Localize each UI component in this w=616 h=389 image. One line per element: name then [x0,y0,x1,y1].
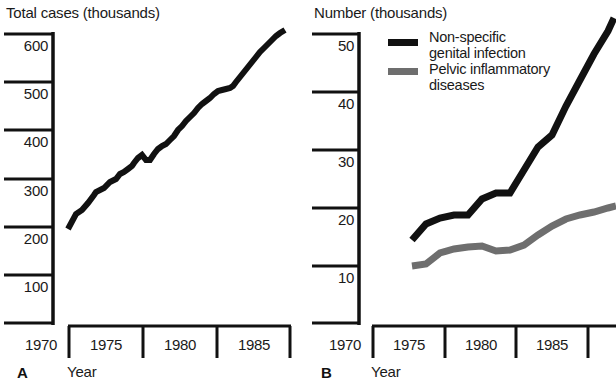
panel-a-series-total-cases [68,30,285,229]
panel-a-x-tick-label-1975: 1975 [81,336,131,353]
panel-b-x-tick-label-1980: 1980 [456,336,506,353]
panel-b-letter: B [321,364,332,381]
panel-a-letter: A [17,364,28,381]
panel-b-x-tick-label-1975: 1975 [384,336,434,353]
panel-a-x-tick-label-1980: 1980 [155,336,205,353]
panel-a-y-tick-label-400: 400 [2,133,48,150]
panel-a-y-tick-label-600: 600 [2,37,48,54]
panel-a-y-tick-label-200: 200 [2,230,48,247]
panel-a-y-tick-label-500: 500 [2,85,48,102]
chart-panel-a: Total cases (thousands) 600 500 400 300 … [0,0,308,389]
panel-a-y-tick-label-300: 300 [2,182,48,199]
panel-a-x-axis-label: Year [67,363,97,380]
legend-label-non-specific-genital-infection: Non-specific genital infection [429,30,526,61]
panel-b-y-tick-label-40: 40 [310,95,354,112]
legend-swatch-non-specific-genital-infection [388,39,418,46]
legend-swatch-pelvic-inflammatory-diseases [388,68,418,75]
legend-label-pelvic-inflammatory-diseases: Pelvic inflammatory diseases [429,62,550,93]
panel-b-y-tick-label-30: 30 [310,153,354,170]
panel-a-x-tick-label-1970: 1970 [16,336,66,353]
panel-b-x-axis-label: Year [371,363,401,380]
panel-b-x-tick-label-1985: 1985 [527,336,577,353]
panel-b-y-tick-label-50: 50 [310,37,354,54]
panel-a-x-tick-label-1985: 1985 [229,336,279,353]
panel-a-y-tick-label-100: 100 [2,278,48,295]
chart-panel-b: Number (thousands) 50 40 30 20 10 1970 1… [308,0,616,389]
panel-b-y-tick-label-10: 10 [310,269,354,286]
panel-b-x-tick-label-1970: 1970 [320,336,370,353]
panel-b-y-tick-label-20: 20 [310,211,354,228]
